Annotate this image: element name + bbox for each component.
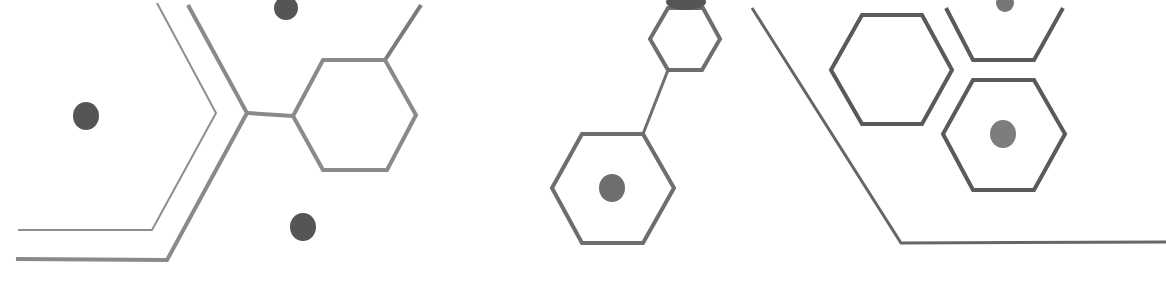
left-dot — [73, 102, 99, 130]
molecule-pattern-graphic — [0, 0, 1166, 288]
middle-hex-dot — [599, 174, 625, 202]
hexagon-line-art — [0, 0, 1166, 288]
right-hex-dot — [990, 120, 1016, 148]
lower-dot — [290, 213, 316, 241]
